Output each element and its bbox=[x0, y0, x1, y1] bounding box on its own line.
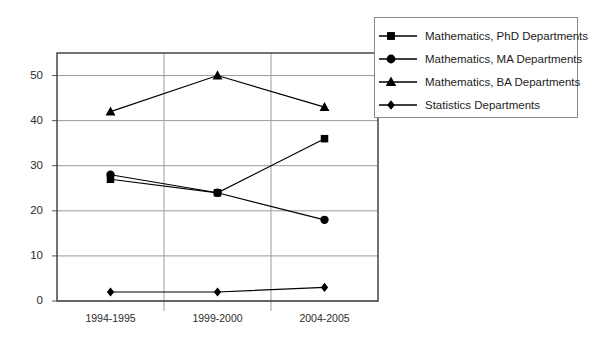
legend-item: Mathematics, PhD Departments bbox=[375, 25, 579, 47]
series-4 bbox=[107, 283, 328, 297]
legend-sample-svg bbox=[377, 71, 421, 93]
legend-item-label: Mathematics, PhD Departments bbox=[425, 29, 588, 43]
chart-legend: Mathematics, PhD DepartmentsMathematics,… bbox=[374, 17, 578, 118]
legend-marker-sample bbox=[377, 71, 421, 93]
diamond-marker-icon bbox=[107, 287, 114, 296]
diamond-marker-icon bbox=[321, 283, 328, 292]
legend-sample-svg bbox=[377, 25, 421, 47]
y-axis-tick-label: 20 bbox=[9, 205, 43, 217]
series-2 bbox=[106, 171, 328, 224]
square-marker-icon bbox=[387, 32, 395, 40]
legend-item-label: Statistics Departments bbox=[425, 98, 540, 112]
circle-marker-icon bbox=[106, 171, 114, 179]
legend-item: Mathematics, MA Departments bbox=[375, 48, 579, 70]
series-line bbox=[111, 175, 325, 220]
legend-sample-svg bbox=[377, 48, 421, 70]
legend-item-label: Mathematics, MA Departments bbox=[425, 52, 582, 66]
series-3 bbox=[106, 70, 330, 115]
y-axis-tick-label: 30 bbox=[9, 160, 43, 172]
series-line bbox=[111, 76, 325, 112]
line-chart: 01020304050 1994-19951999-20002004-2005 … bbox=[0, 0, 600, 338]
legend-item: Mathematics, BA Departments bbox=[375, 71, 579, 93]
x-axis-tick-label: 1999-2000 bbox=[168, 313, 268, 324]
legend-item: Statistics Departments bbox=[375, 94, 579, 116]
legend-marker-sample bbox=[377, 94, 421, 116]
y-axis-tick-label: 10 bbox=[9, 250, 43, 262]
diamond-marker-icon bbox=[214, 287, 221, 296]
square-marker-icon bbox=[321, 135, 329, 143]
x-axis-tick-label: 2004-2005 bbox=[275, 313, 375, 324]
y-axis-tick-label: 0 bbox=[9, 295, 43, 307]
y-axis-tick-label: 40 bbox=[9, 115, 43, 127]
legend-item-label: Mathematics, BA Departments bbox=[425, 75, 580, 89]
legend-sample-svg bbox=[377, 94, 421, 116]
circle-marker-icon bbox=[387, 55, 396, 64]
circle-marker-icon bbox=[320, 216, 328, 224]
legend-marker-sample bbox=[377, 48, 421, 70]
diamond-marker-icon bbox=[387, 100, 395, 110]
circle-marker-icon bbox=[213, 189, 221, 197]
legend-marker-sample bbox=[377, 25, 421, 47]
y-axis-tick-label: 50 bbox=[9, 70, 43, 82]
x-axis-tick-label: 1994-1995 bbox=[61, 313, 161, 324]
triangle-marker-icon bbox=[213, 70, 223, 79]
plot-frame bbox=[57, 53, 378, 301]
